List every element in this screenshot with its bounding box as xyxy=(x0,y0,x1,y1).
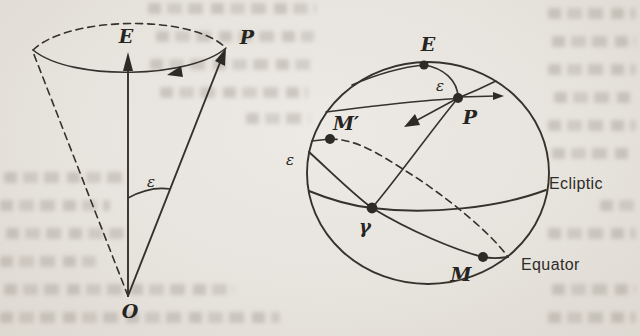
displaced-equator-dashed xyxy=(330,139,508,257)
sphere-label-M: M xyxy=(449,263,472,285)
celestial-sphere-outline xyxy=(307,62,549,284)
sphere-label-epsilon-pole: ε xyxy=(436,77,444,95)
ecliptic-circle xyxy=(309,190,546,211)
sphere-label-gamma: γ xyxy=(359,216,372,237)
celestial-sphere-figure: E ε P M′ ε γ M Ecliptic Equator xyxy=(286,33,603,285)
point-gamma-vernal-equinox xyxy=(367,203,378,214)
cone-label-epsilon: ε xyxy=(147,173,155,191)
axis-arrowhead xyxy=(123,52,133,71)
arrow-east-from-P-head xyxy=(493,92,504,100)
sphere-label-P: P xyxy=(462,106,478,128)
point-P-celestial-pole xyxy=(453,93,463,103)
cone-label-E: E xyxy=(118,25,134,47)
point-E-ecliptic-pole xyxy=(419,60,428,69)
point-M-star xyxy=(478,252,488,262)
slant-arrowhead xyxy=(215,48,226,66)
sphere-label-epsilon-node: ε xyxy=(286,151,294,169)
scanned-book-page: E P O ε xyxy=(0,0,640,336)
precession-of-equinoxes-diagram: E P O ε xyxy=(0,0,640,336)
point-M-prime xyxy=(325,134,335,144)
pole-motion-arrowhead xyxy=(404,114,420,127)
equator-circle xyxy=(309,152,508,258)
cone-slant-line xyxy=(128,60,221,296)
cone-label-O: O xyxy=(122,300,139,322)
label-ecliptic: Ecliptic xyxy=(549,175,603,192)
sphere-label-M-prime: M′ xyxy=(332,112,359,134)
arrow-east-from-P-line xyxy=(460,96,496,97)
sphere-label-E: E xyxy=(420,33,436,55)
cone-back-edge-dashed xyxy=(33,52,128,296)
precession-cone-figure: E P O ε xyxy=(33,23,255,322)
label-equator: Equator xyxy=(521,256,580,273)
cone-label-P: P xyxy=(239,26,255,48)
precession-small-circle xyxy=(326,98,458,112)
